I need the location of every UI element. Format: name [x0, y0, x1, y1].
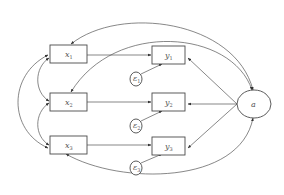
path-a-y3 [188, 104, 237, 148]
node-x1: x1 [50, 45, 87, 63]
node-x3: x3 [50, 136, 87, 154]
node-y3: y3 [152, 137, 185, 155]
path-e1-y1 [141, 64, 162, 74]
path-diagram: x1 x2 x3 y1 y2 y3 ε1 ε2 ε3 a [0, 0, 284, 195]
cov-x1-x2 [38, 58, 49, 101]
node-e3: ε3 [130, 161, 142, 175]
svg-text:a: a [251, 100, 256, 109]
cov-x2-x3 [38, 103, 49, 145]
node-x2: x2 [50, 93, 87, 111]
node-a: a [237, 90, 271, 118]
path-a-y1 [188, 58, 237, 104]
node-y2: y2 [152, 93, 185, 111]
node-e1: ε1 [130, 72, 142, 86]
node-y1: y1 [152, 46, 185, 64]
node-e2: ε2 [130, 119, 142, 133]
cov-x1-x3 [18, 55, 48, 148]
path-e2-y2 [141, 111, 162, 121]
